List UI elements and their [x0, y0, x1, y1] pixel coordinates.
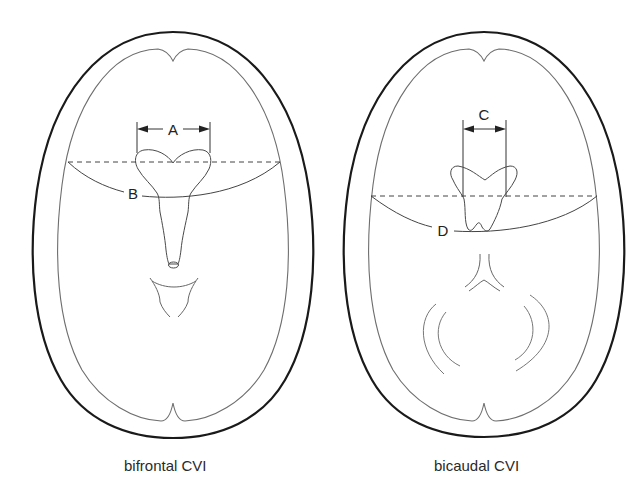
cvi-diagram: A B C D — [0, 0, 641, 497]
measure-b-arc-left — [68, 162, 124, 192]
label-c: C — [479, 106, 490, 123]
arrowhead-icon — [495, 126, 506, 133]
crescent-inner-right — [515, 306, 533, 360]
midline-structure-right — [465, 254, 504, 291]
brain-outline-left — [58, 49, 289, 421]
label-a: A — [168, 121, 178, 138]
caption-bifrontal: bifrontal CVI — [124, 457, 207, 474]
ventricle-right — [451, 166, 517, 231]
label-b: B — [128, 185, 138, 202]
crescent-outer-left — [423, 304, 444, 374]
brain-outline-right — [369, 49, 600, 421]
label-d: D — [438, 222, 449, 239]
bicaudal-panel: C D — [344, 32, 625, 437]
bifrontal-panel: A B — [33, 32, 314, 438]
measure-b-arc-right — [142, 162, 280, 197]
aqueduct-left — [169, 262, 179, 268]
skull-outline-right — [344, 32, 625, 437]
arrowhead-icon — [463, 126, 474, 133]
arrowhead-icon — [199, 126, 210, 133]
fourth-ventricle-left-upper — [152, 281, 196, 287]
caption-bicaudal: bicaudal CVI — [434, 457, 519, 474]
measure-d-arc-left — [371, 196, 432, 227]
crescent-inner-left — [438, 312, 460, 366]
ventricle-left — [136, 150, 211, 264]
skull-outline-left — [33, 32, 314, 438]
arrowhead-icon — [137, 126, 148, 133]
